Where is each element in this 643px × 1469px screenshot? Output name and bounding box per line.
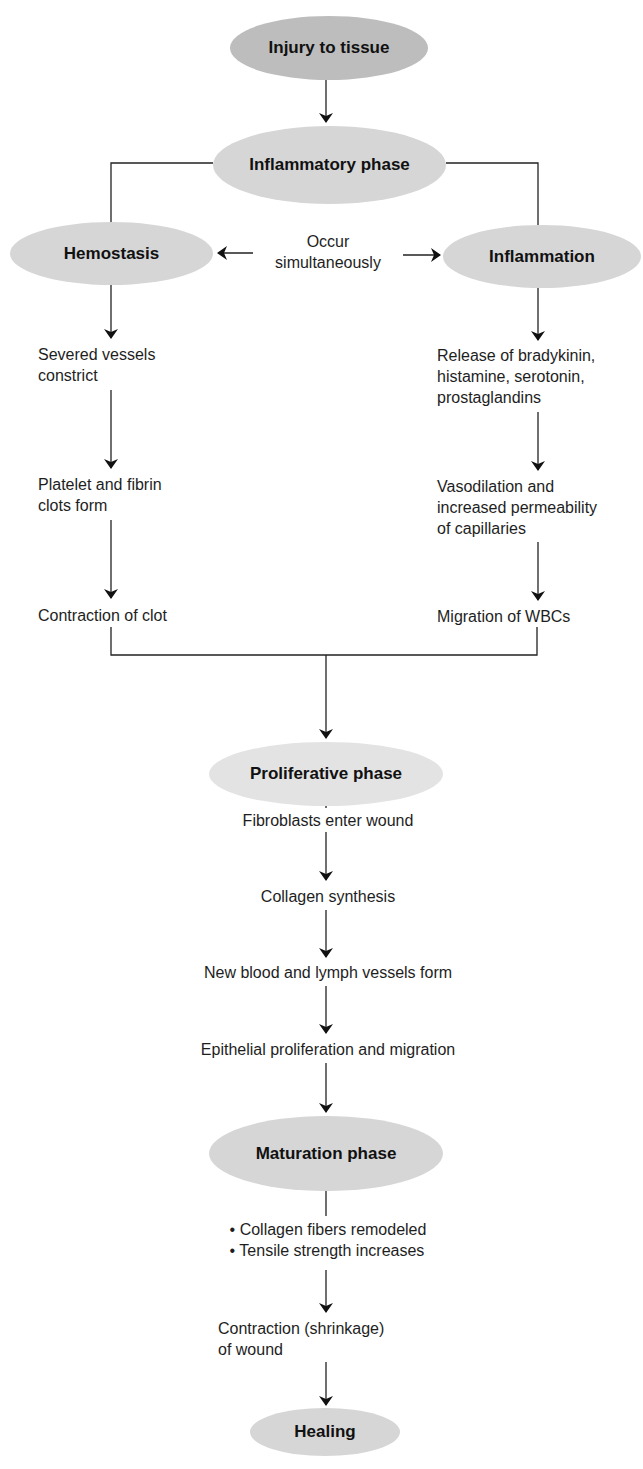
inflammation-step-migration-wbcs: Migration of WBCs bbox=[437, 606, 570, 627]
node-healing: Healing bbox=[250, 1408, 400, 1456]
inflammation-step-vasodilation: Vasodilation and increased permeability … bbox=[437, 476, 597, 539]
node-hemostasis: Hemostasis bbox=[10, 222, 213, 285]
maturation-bullets: • Collagen fibers remodeled • Tensile st… bbox=[230, 1219, 427, 1261]
node-label: Maturation phase bbox=[256, 1144, 397, 1164]
hemostasis-step-platelet-clots: Platelet and fibrin clots form bbox=[38, 474, 162, 516]
node-label: Healing bbox=[294, 1422, 355, 1442]
node-inflammatory-phase: Inflammatory phase bbox=[213, 126, 446, 204]
maturation-step-wound-contraction: Contraction (shrinkage) of wound bbox=[218, 1318, 384, 1360]
proliferative-step-epithelial: Epithelial proliferation and migration bbox=[201, 1039, 455, 1060]
node-inflammation: Inflammation bbox=[443, 225, 641, 288]
node-label: Hemostasis bbox=[64, 244, 159, 264]
node-label: Injury to tissue bbox=[269, 38, 390, 58]
node-label: Inflammatory phase bbox=[249, 155, 410, 175]
node-label: Inflammation bbox=[489, 247, 595, 267]
hemostasis-step-severed-vessels: Severed vessels constrict bbox=[38, 344, 155, 386]
proliferative-step-collagen-synthesis: Collagen synthesis bbox=[261, 886, 395, 907]
node-proliferative-phase: Proliferative phase bbox=[209, 742, 443, 806]
proliferative-step-fibroblasts: Fibroblasts enter wound bbox=[243, 810, 414, 831]
wound-healing-flowchart: Injury to tissue Inflammatory phase Hemo… bbox=[0, 0, 643, 1469]
bullet-collagen-remodeled: • Collagen fibers remodeled bbox=[230, 1219, 427, 1240]
node-maturation-phase: Maturation phase bbox=[209, 1116, 443, 1191]
node-injury-to-tissue: Injury to tissue bbox=[230, 16, 428, 80]
hemostasis-step-contraction-of-clot: Contraction of clot bbox=[38, 605, 167, 626]
node-label: Proliferative phase bbox=[250, 764, 402, 784]
inflammation-step-release-mediators: Release of bradykinin, histamine, seroto… bbox=[437, 345, 595, 408]
simultaneous-label: Occur simultaneously bbox=[275, 231, 381, 273]
proliferative-step-new-vessels: New blood and lymph vessels form bbox=[204, 962, 452, 983]
bullet-tensile-strength: • Tensile strength increases bbox=[230, 1240, 427, 1261]
